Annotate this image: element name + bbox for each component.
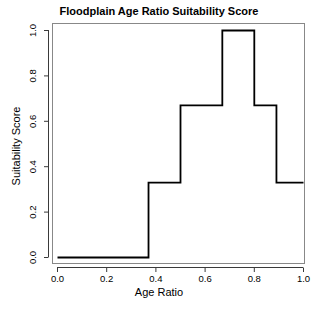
x-tick-label: 0.4 (149, 273, 162, 284)
plot-frame (53, 24, 305, 264)
x-axis-tick-labels: 0.0 0.2 0.4 0.6 0.8 1.0 (51, 273, 310, 284)
x-tick-label: 0.8 (248, 273, 261, 284)
y-tick-label: 1.0 (27, 24, 38, 37)
x-axis-ticks (58, 268, 304, 273)
x-tick-label: 1.0 (297, 273, 310, 284)
y-tick-label: 0.6 (27, 115, 38, 128)
y-tick-label: 0.0 (27, 251, 38, 264)
y-tick-label: 0.4 (27, 160, 38, 173)
x-tick-label: 0.2 (100, 273, 113, 284)
x-tick-label: 0.0 (51, 273, 64, 284)
chart-container: Floodplain Age Ratio Suitability Score 0… (0, 0, 318, 310)
y-tick-label: 0.2 (27, 205, 38, 218)
plot-area: 0.0 0.2 0.4 0.6 0.8 1.0 0.0 0.2 0.4 0.6 … (0, 0, 318, 310)
y-axis-tick-labels: 0.0 0.2 0.4 0.6 0.8 1.0 (27, 24, 38, 264)
y-axis-ticks (44, 31, 49, 258)
x-axis-label: Age Ratio (0, 286, 318, 298)
y-tick-label: 0.8 (27, 69, 38, 82)
y-axis-label: Suitability Score (10, 86, 22, 206)
step-curve (58, 31, 304, 258)
x-tick-label: 0.6 (198, 273, 211, 284)
